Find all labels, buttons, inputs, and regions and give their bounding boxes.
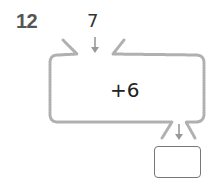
input-arrow-icon: [91, 37, 99, 53]
answer-box[interactable]: [154, 146, 201, 178]
machine-operation: +6: [110, 78, 139, 102]
output-arrow-icon: [175, 124, 183, 140]
